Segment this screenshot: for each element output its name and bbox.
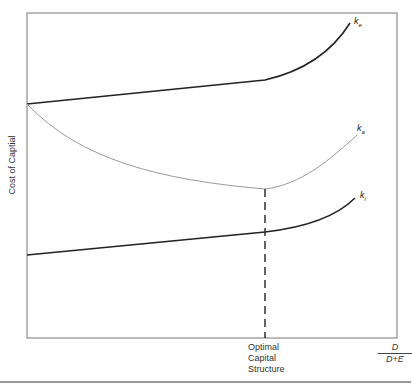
ki-label-sub: i: [365, 196, 366, 202]
x-tick-line-2: Capital: [248, 353, 285, 364]
ka-label-sub: a: [362, 129, 365, 135]
x-axis-label: D D+E: [378, 342, 412, 365]
x-tick-optimal-capital-structure: Optimal Capital Structure: [248, 342, 285, 375]
x-tick-line-1: Optimal: [248, 342, 285, 353]
ki-curve: [27, 198, 355, 255]
x-tick-line-3: Structure: [248, 364, 285, 375]
ka-curve: [27, 104, 357, 189]
ki-label: ki: [360, 190, 366, 202]
x-axis-numerator: D: [378, 342, 412, 354]
x-axis-denominator: D+E: [378, 354, 412, 365]
y-axis-label: Cost of Captial: [7, 125, 17, 205]
bottom-divider: [0, 381, 411, 383]
plot-frame: [27, 13, 397, 338]
ke-curve: [27, 23, 350, 104]
ke-label-sub: e: [359, 22, 362, 28]
ke-label: ke: [354, 16, 362, 28]
ka-label: ka: [357, 123, 365, 135]
